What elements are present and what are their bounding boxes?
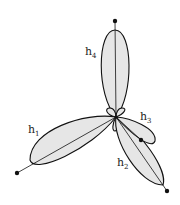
nucleus-dot-h4	[113, 19, 117, 23]
label-h1: h1	[28, 123, 40, 138]
center-dot	[114, 115, 117, 118]
orbital-diagram: h4 h1 h2 h3	[0, 0, 180, 205]
nucleus-dot-h3	[139, 138, 143, 142]
label-h2: h2	[117, 156, 129, 171]
nucleus-dot-h1	[15, 171, 19, 175]
lobe-h1	[30, 116, 116, 164]
label-h3: h3	[140, 110, 152, 125]
nucleus-dot-h2	[165, 189, 169, 193]
label-h4: h4	[85, 45, 97, 60]
